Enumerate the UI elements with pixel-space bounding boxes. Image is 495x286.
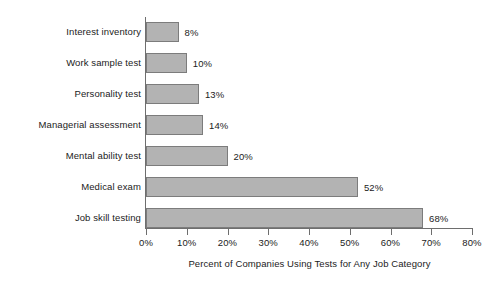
category-label: Job skill testing <box>0 208 141 228</box>
x-tick-label: 60% <box>381 237 400 248</box>
category-label: Medical exam <box>0 177 141 197</box>
x-tick-label: 20% <box>218 237 237 248</box>
bar <box>146 84 199 104</box>
bar-row: 13% <box>146 84 472 104</box>
x-tick-label: 0% <box>139 237 153 248</box>
bar-chart: 8%10%13%14%20%52%68% Interest inventoryW… <box>0 0 495 286</box>
bar <box>146 146 228 166</box>
bar-value-label: 8% <box>185 27 199 38</box>
bar-row: 10% <box>146 53 472 73</box>
x-axis-title: Percent of Companies Using Tests for Any… <box>146 258 473 269</box>
category-label: Mental ability test <box>0 146 141 166</box>
bar-value-label: 20% <box>234 151 253 162</box>
bar-row: 14% <box>146 115 472 135</box>
x-tick-mark <box>431 229 432 235</box>
bar <box>146 53 187 73</box>
x-tick-mark <box>391 229 392 235</box>
x-tick-mark <box>309 229 310 235</box>
bar-row: 8% <box>146 22 472 42</box>
x-tick-mark <box>187 229 188 235</box>
x-tick-label: 10% <box>177 237 196 248</box>
x-tick-label: 30% <box>259 237 278 248</box>
x-tick-mark <box>472 229 473 235</box>
category-label: Managerial assessment <box>0 115 141 135</box>
bar-row: 20% <box>146 146 472 166</box>
category-label: Personality test <box>0 84 141 104</box>
bar <box>146 115 203 135</box>
x-tick-label: 80% <box>462 237 481 248</box>
bar-value-label: 13% <box>205 89 224 100</box>
x-tick-label: 50% <box>340 237 359 248</box>
bar-value-label: 52% <box>364 182 383 193</box>
x-tick-mark <box>268 229 269 235</box>
x-tick-mark <box>228 229 229 235</box>
bar-value-label: 68% <box>429 213 448 224</box>
x-tick-mark <box>146 229 147 235</box>
bar <box>146 177 358 197</box>
bar-row: 52% <box>146 177 472 197</box>
bar <box>146 208 423 228</box>
bar-value-label: 14% <box>209 120 228 131</box>
bar-value-label: 10% <box>193 58 212 69</box>
bar <box>146 22 179 42</box>
x-tick-label: 70% <box>422 237 441 248</box>
x-tick-label: 40% <box>299 237 318 248</box>
category-label: Work sample test <box>0 53 141 73</box>
category-label: Interest inventory <box>0 22 141 42</box>
bar-row: 68% <box>146 208 472 228</box>
x-tick-mark <box>350 229 351 235</box>
